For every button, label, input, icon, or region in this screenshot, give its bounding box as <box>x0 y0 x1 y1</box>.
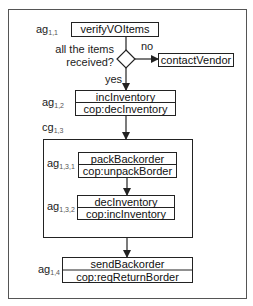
decision-question-line2: received? <box>66 56 114 68</box>
decision-diamond <box>117 50 135 68</box>
label-ag-1-4: ag1,4 <box>38 263 60 276</box>
workflow-diagram: ag1,1 verifyVOItems all the items receiv… <box>0 0 253 306</box>
verify-title: verifyVOItems <box>80 23 150 35</box>
yes-label: yes <box>105 73 123 85</box>
label-ag-1-1: ag1,1 <box>36 23 58 36</box>
send-cop: cop:reqReturnBorder <box>76 271 179 283</box>
contact-vendor-title: contactVendor <box>161 54 232 66</box>
decision-question-line1: all the items <box>55 43 114 55</box>
node-send-backorder: ag1,4 sendBackorder cop:reqReturnBorder <box>38 258 193 283</box>
inc-title: incInventory <box>96 91 156 103</box>
label-ag-1-3-2: ag1,3,2 <box>47 200 75 213</box>
dec-title: decInventory <box>95 196 158 208</box>
label-ag-1-3-1: ag1,3,1 <box>47 157 75 170</box>
node-inc-inventory: ag1,2 incInventory cop:decInventory <box>42 91 176 116</box>
send-title: sendBackorder <box>91 258 165 270</box>
label-cg-1-3: cg1,3 <box>42 121 63 134</box>
label-ag-1-2: ag1,2 <box>42 96 64 109</box>
no-label: no <box>141 40 153 52</box>
pack-title: packBackorder <box>91 153 165 165</box>
node-dec-inventory: ag1,3,2 decInventory cop:incInventory <box>47 196 175 220</box>
node-contact-vendor: contactVendor <box>159 54 234 67</box>
pack-cop: cop:unpackBorder <box>83 165 173 177</box>
node-verify-vo-items: ag1,1 verifyVOItems <box>36 23 159 37</box>
dec-cop: cop:incInventory <box>86 208 167 220</box>
inc-cop: cop:decInventory <box>84 103 168 115</box>
node-pack-backorder: ag1,3,1 packBackorder cop:unpackBorder <box>47 153 177 178</box>
